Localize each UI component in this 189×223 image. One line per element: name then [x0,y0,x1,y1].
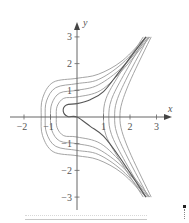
y-tick-label: −2 [61,165,72,176]
y-tick-label: −3 [61,192,72,203]
y-axis-arrow-icon [74,22,80,30]
x-tick-label: −1 [43,121,54,132]
x-tick-label: −2 [17,121,28,132]
y-axis-label: y [82,17,88,28]
caption-rule [25,219,147,220]
side-dots [184,209,185,219]
x-tick-label: 1 [101,121,106,132]
dotted-rule [25,215,147,216]
y-tick-label: 2 [67,58,72,69]
y-tick-label: 3 [67,31,72,42]
x-axis-arrow-icon [164,114,172,120]
y-tick-label: −1 [61,138,72,149]
x-tick-label: 3 [154,121,159,132]
x-tick-label: 2 [128,121,133,132]
x-axis-label: x [167,103,173,114]
y-tick-label: 1 [67,85,72,96]
bullet-marker-icon [183,205,186,208]
chart-plot: −2−1123 321−1−2−3 x y [0,0,189,223]
